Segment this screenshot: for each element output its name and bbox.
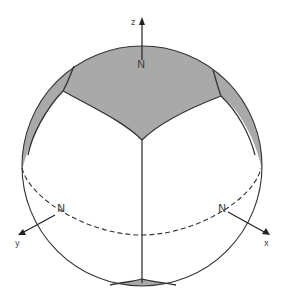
y-pole-label: N: [57, 202, 65, 215]
y-axis-label: y: [15, 239, 20, 248]
x-pole-label: N: [218, 202, 226, 215]
x-axis: x N: [218, 202, 270, 248]
x-axis-label: x: [264, 239, 269, 248]
sphere-diagram: z N y N x N: [0, 0, 287, 304]
z-arrowhead-icon: [139, 17, 145, 25]
y-axis-line: [22, 215, 55, 233]
diagram-canvas: z N y N x N: [0, 0, 287, 304]
y-axis: y N: [15, 202, 65, 248]
x-axis-line: [228, 212, 266, 233]
z-pole-label: N: [137, 58, 145, 71]
z-axis-label: z: [131, 18, 135, 27]
